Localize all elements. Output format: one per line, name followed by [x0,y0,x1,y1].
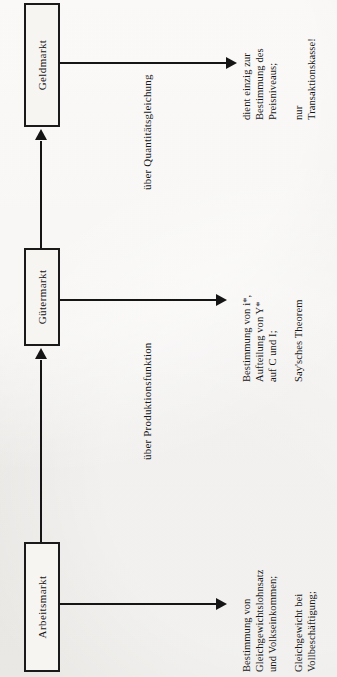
connector-line-arbeitsmarkt-to-guetermarkt [40,360,42,542]
annotation-arrowhead-arbeitsmarkt [216,598,227,610]
annotation-line-text: nur [292,38,305,120]
annotation-line-text: Gleichgewicht bei [292,569,305,672]
diagram-canvas: Geldmarkt Gütermarkt Arbeitsmarkt über Q… [0,0,337,677]
annotation-line-text: Preisniveaus; [266,38,279,120]
annotation-spacer [279,38,292,120]
annotation-line-text: Transaktionskasse! [305,38,318,120]
annotation-line-text: Bestimmung des [253,38,266,120]
annotation-line-text: Aufteilung von Y* [253,295,266,382]
annotation-line-text: Bestimmung von [240,569,253,672]
annotation-line-text: Bestimmung von i*, [240,295,253,382]
annotation-line-arbeitsmarkt [60,603,218,605]
annotation-spacer [279,569,292,672]
annotation-line-geldmarkt [60,62,228,64]
edge-label-quantitaetsgleichung-wrap: über Quantitätsgleichung [141,74,153,190]
edge-label-produktionsfunktion: über Produktionsfunktion [141,342,153,460]
node-box-arbeitsmarkt[interactable]: Arbeitsmarkt [24,542,60,672]
annotation-arbeitsmarkt: Bestimmung von Gleichgewichtslohnsatz un… [240,569,318,672]
annotation-line-text: Say'sches Theorem [292,295,305,382]
annotation-line-text: auf C und I; [266,295,279,382]
connector-arrowhead-guetermarkt-to-geldmarkt [35,129,47,140]
annotation-line-text: Vollbeschäftigung; [305,569,318,672]
annotation-arrowhead-geldmarkt [226,57,237,69]
annotation-geldmarkt: dient einzig zur Bestimmung des Preisniv… [240,38,318,120]
annotation-line-text: und Volkseinkommen; [266,569,279,672]
connector-arrowhead-arbeitsmarkt-to-guetermarkt [35,348,47,359]
annotation-spacer [279,295,292,382]
node-box-geldmarkt[interactable]: Geldmarkt [24,3,60,127]
annotation-guetermarkt: Bestimmung von i*, Aufteilung von Y* auf… [240,295,305,382]
edge-label-quantitaetsgleichung: über Quantitätsgleichung [141,74,153,190]
annotation-arrowhead-guetermarkt [216,294,227,306]
connector-line-guetermarkt-to-geldmarkt [40,141,42,248]
node-label-arbeitsmarkt: Arbeitsmarkt [36,576,48,639]
annotation-line-text: dient einzig zur [240,38,253,120]
node-label-geldmarkt: Geldmarkt [36,40,48,91]
node-box-guetermarkt[interactable]: Gütermarkt [24,248,60,346]
edge-label-produktionsfunktion-wrap: über Produktionsfunktion [141,342,153,460]
node-label-guetermarkt: Gütermarkt [36,270,48,325]
annotation-line-guetermarkt [60,299,218,301]
annotation-line-text: Gleichgewichtslohnsatz [253,569,266,672]
